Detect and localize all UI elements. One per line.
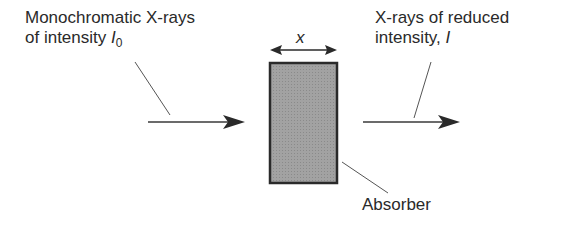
thickness-label: x — [296, 28, 305, 48]
absorber-leader-line — [342, 162, 388, 193]
absorber-block — [270, 63, 337, 183]
transmitted-label-line2: intensity, I — [375, 28, 509, 48]
incident-label-line1: Monochromatic X-rays — [25, 8, 195, 28]
incident-beam-arrow — [148, 115, 245, 129]
incident-label: Monochromatic X-rays of intensity I0 — [25, 8, 195, 53]
transmitted-label: X-rays of reduced intensity, I — [375, 8, 509, 48]
transmitted-beam-arrow — [363, 115, 460, 129]
transmitted-label-line1: X-rays of reduced — [375, 8, 509, 28]
transmitted-leader-line — [414, 62, 431, 118]
incident-leader-line — [135, 62, 170, 115]
absorber-label: Absorber — [362, 195, 431, 215]
incident-label-line2: of intensity I0 — [25, 28, 195, 53]
intensity-symbol-I: I — [446, 28, 451, 47]
